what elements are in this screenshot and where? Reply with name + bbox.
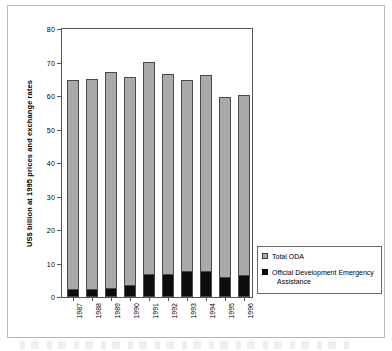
y-axis-tick <box>57 63 62 64</box>
legend-item-total-oda: Total ODA <box>262 252 377 261</box>
legend-swatch-emergency-assistance-icon <box>262 269 268 275</box>
y-axis-tick <box>57 163 62 164</box>
bar-group: 1987198819891990199119921993199419951996 <box>63 29 251 297</box>
bar-total-oda[interactable] <box>143 62 155 297</box>
x-axis-tick-label: 1996 <box>247 303 254 319</box>
bar-emergency-assistance[interactable] <box>182 271 192 296</box>
y-axis-tick-label: 50 <box>47 126 55 133</box>
x-axis-tick-label: 1995 <box>228 303 235 319</box>
x-axis-tick <box>149 297 150 301</box>
stacked-bar-chart: US$ billion at 1995 prices and exchange … <box>8 6 386 339</box>
bar-emergency-assistance[interactable] <box>201 271 211 296</box>
x-axis-tick <box>111 297 112 301</box>
x-axis-tick <box>225 297 226 301</box>
x-axis-tick <box>92 297 93 301</box>
y-axis-title: US$ billion at 1995 prices and exchange … <box>23 28 37 298</box>
figure-frame: US$ billion at 1995 prices and exchange … <box>7 5 385 338</box>
y-axis-tick-label: 80 <box>47 26 55 33</box>
y-axis-tick <box>57 96 62 97</box>
legend-label-total-oda: Total ODA <box>272 252 304 261</box>
bar-total-oda[interactable] <box>219 97 231 297</box>
x-axis-tick-label: 1987 <box>76 303 83 319</box>
bar-total-oda[interactable] <box>67 80 79 297</box>
x-axis-tick-label: 1990 <box>133 303 140 319</box>
legend-label-emergency-assistance: Official Development Emergency Assistanc… <box>272 268 374 286</box>
legend-item-emergency-assistance: Official Development Emergency Assistanc… <box>262 268 377 286</box>
y-axis-tick-label: 70 <box>47 59 55 66</box>
plot-area: 01020304050607080 1987198819891990199119… <box>61 28 253 298</box>
bar-emergency-assistance[interactable] <box>163 274 173 296</box>
x-axis-tick-label: 1994 <box>209 303 216 319</box>
y-axis-tick <box>57 230 62 231</box>
bar-total-oda[interactable] <box>162 74 174 297</box>
y-axis-tick-label: 0 <box>51 294 55 301</box>
x-axis-tick-label: 1989 <box>114 303 121 319</box>
bar-emergency-assistance[interactable] <box>68 289 78 296</box>
y-axis-title-label: US$ billion at 1995 prices and exchange … <box>26 79 35 246</box>
bar-total-oda[interactable] <box>238 95 250 297</box>
legend-swatch-total-oda-icon <box>262 253 268 259</box>
bar-emergency-assistance[interactable] <box>220 277 230 296</box>
bar-total-oda[interactable] <box>200 75 212 297</box>
y-axis-tick-label: 60 <box>47 93 55 100</box>
x-axis-tick <box>187 297 188 301</box>
bar-total-oda[interactable] <box>181 80 193 297</box>
y-axis-tick <box>57 197 62 198</box>
x-axis-tick <box>168 297 169 301</box>
y-axis-tick-label: 20 <box>47 227 55 234</box>
bar-emergency-assistance[interactable] <box>125 285 135 296</box>
legend-label-emergency-assistance-line2: Assistance <box>272 277 374 286</box>
x-axis-tick <box>244 297 245 301</box>
x-axis-tick-label: 1991 <box>152 303 159 319</box>
bar-total-oda[interactable] <box>105 72 117 297</box>
x-axis-tick-label: 1992 <box>171 303 178 319</box>
x-axis-tick-label: 1988 <box>95 303 102 319</box>
x-axis-tick <box>73 297 74 301</box>
bar-total-oda[interactable] <box>124 77 136 297</box>
bar-emergency-assistance[interactable] <box>144 274 154 296</box>
bar-emergency-assistance[interactable] <box>239 275 249 296</box>
chart-legend: Total ODA Official Development Emergency… <box>257 246 382 294</box>
bar-emergency-assistance[interactable] <box>87 289 97 296</box>
y-axis-tick <box>57 297 62 298</box>
y-axis-tick-label: 30 <box>47 193 55 200</box>
y-axis-tick <box>57 29 62 30</box>
x-axis-tick-label: 1993 <box>190 303 197 319</box>
y-axis-tick-label: 10 <box>47 260 55 267</box>
y-axis-tick <box>57 130 62 131</box>
x-axis-tick <box>130 297 131 301</box>
bar-emergency-assistance[interactable] <box>106 288 116 296</box>
y-axis-tick-label: 40 <box>47 160 55 167</box>
scan-artifact <box>20 341 350 349</box>
y-axis-tick <box>57 264 62 265</box>
legend-label-emergency-assistance-line1: Official Development Emergency <box>272 269 374 276</box>
x-axis-tick <box>206 297 207 301</box>
bar-total-oda[interactable] <box>86 79 98 297</box>
